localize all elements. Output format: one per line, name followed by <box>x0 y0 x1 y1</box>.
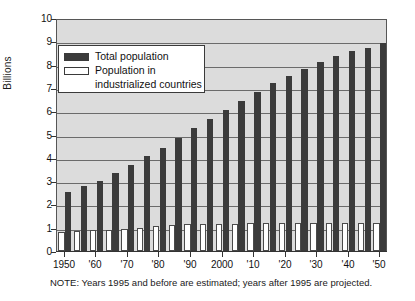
bar-industrialized-countries <box>263 223 269 251</box>
x-axis-tick-label: 1950 <box>53 259 75 270</box>
y-axis-tick-label: 10 <box>30 14 52 24</box>
bar-industrialized-countries <box>153 226 159 251</box>
chart-note: NOTE: Years 1995 and before are estimate… <box>50 277 372 289</box>
bar-group <box>356 20 372 251</box>
x-axis-tick-label: '50 <box>372 259 385 270</box>
bar-total-population <box>97 181 103 251</box>
y-axis-tick-label: 2 <box>30 200 52 210</box>
bar-total-population <box>223 110 229 251</box>
bar-group <box>341 20 357 251</box>
bar-industrialized-countries <box>58 232 64 251</box>
bar-total-population <box>270 83 276 251</box>
bar-group <box>215 20 231 251</box>
bar-industrialized-countries <box>232 224 238 251</box>
x-axis-tick-mark <box>127 252 128 257</box>
legend-swatch-industrialized-countries-icon <box>64 67 89 75</box>
x-axis-tick-label: '80 <box>151 259 164 270</box>
bar-industrialized-countries <box>358 223 364 251</box>
legend-label-total-population: Total population <box>95 50 169 63</box>
y-axis-tick-label: 8 <box>30 61 52 71</box>
bar-total-population <box>160 148 166 251</box>
bar-industrialized-countries <box>106 230 112 251</box>
bar-industrialized-countries <box>90 230 96 251</box>
bar-industrialized-countries <box>216 224 222 251</box>
x-axis-tick-mark <box>64 252 65 257</box>
bar-total-population <box>207 119 213 251</box>
bar-total-population <box>128 165 134 251</box>
x-axis-tick-label: '60 <box>88 259 101 270</box>
y-axis-tick-label: 4 <box>30 154 52 164</box>
y-axis-tick-label: 0 <box>30 247 52 257</box>
y-axis-tick-label: 7 <box>30 84 52 94</box>
bar-industrialized-countries <box>200 224 206 251</box>
bar-total-population <box>191 128 197 251</box>
x-axis-tick-label: '90 <box>183 259 196 270</box>
y-axis-title: Billions <box>2 28 16 118</box>
bar-total-population <box>175 138 181 251</box>
bar-industrialized-countries <box>137 228 143 251</box>
bar-industrialized-countries <box>247 223 253 251</box>
bar-total-population <box>81 186 87 251</box>
x-axis-tick-label: '20 <box>278 259 291 270</box>
bar-total-population <box>301 69 307 251</box>
bar-total-population <box>380 43 386 251</box>
y-axis-tick-label: 3 <box>30 177 52 187</box>
legend-item-total-population: Total population <box>64 50 199 64</box>
x-axis-tick-mark <box>190 252 191 257</box>
bar-total-population <box>286 76 292 251</box>
bar-total-population <box>317 62 323 251</box>
bar-group <box>278 20 294 251</box>
population-bar-chart-figure: Billions 012345678910 1950'60'70'80'9020… <box>0 0 415 301</box>
bar-total-population <box>349 51 355 251</box>
legend-label-industrialized-countries-line1: Population in <box>95 64 156 77</box>
y-axis-tick-label: 1 <box>30 224 52 234</box>
x-axis-tick-mark <box>316 252 317 257</box>
bar-group <box>246 20 262 251</box>
bar-industrialized-countries <box>184 224 190 251</box>
x-axis-tick-label: '70 <box>120 259 133 270</box>
legend-item-industrialized-countries: Population in <box>64 64 199 78</box>
x-axis-tick-label: '40 <box>341 259 354 270</box>
bar-total-population <box>333 56 339 251</box>
legend-label-industrialized-countries-line2: industrialized countries <box>95 78 202 91</box>
bar-total-population <box>238 101 244 251</box>
y-axis-tick-mark <box>51 252 56 253</box>
bar-group <box>325 20 341 251</box>
y-axis-tick-label: 6 <box>30 107 52 117</box>
x-axis-tick-mark <box>348 252 349 257</box>
x-axis-tick-mark <box>222 252 223 257</box>
bar-industrialized-countries <box>279 223 285 251</box>
x-axis-tick-label: 2000 <box>211 259 233 270</box>
x-axis-tick-label: '30 <box>309 259 322 270</box>
bar-industrialized-countries <box>74 231 80 251</box>
x-axis-tick-mark <box>95 252 96 257</box>
bar-industrialized-countries <box>295 223 301 251</box>
bar-group <box>293 20 309 251</box>
bar-industrialized-countries <box>373 223 379 251</box>
bar-industrialized-countries <box>326 223 332 251</box>
x-axis-tick-label: '10 <box>246 259 259 270</box>
chart-legend: Total population Population in industria… <box>58 45 205 93</box>
y-axis-tick-labels: 012345678910 <box>22 0 52 301</box>
x-axis-tick-mark <box>285 252 286 257</box>
legend-swatch-total-population-icon <box>64 53 89 61</box>
bar-group <box>372 20 387 251</box>
bar-total-population <box>112 173 118 251</box>
x-axis-tick-mark <box>253 252 254 257</box>
bar-group <box>230 20 246 251</box>
bar-industrialized-countries <box>342 223 348 251</box>
bar-total-population <box>65 192 71 251</box>
bar-group <box>262 20 278 251</box>
bar-total-population <box>254 92 260 251</box>
bar-industrialized-countries <box>310 223 316 251</box>
bar-total-population <box>365 48 371 251</box>
x-axis-tick-mark <box>379 252 380 257</box>
bar-industrialized-countries <box>121 229 127 251</box>
bar-total-population <box>144 156 150 251</box>
legend-item-industrialized-countries-line2: industrialized countries <box>64 78 199 92</box>
x-axis-tick-mark <box>158 252 159 257</box>
y-axis-tick-label: 9 <box>30 37 52 47</box>
y-axis-tick-label: 5 <box>30 131 52 141</box>
bar-group <box>309 20 325 251</box>
bar-industrialized-countries <box>169 225 175 251</box>
